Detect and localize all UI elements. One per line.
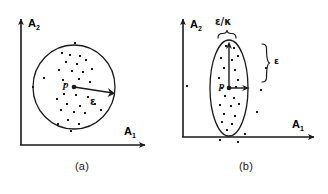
radius-line-a — [74, 87, 113, 93]
y-axis-label-b: A2 — [190, 18, 202, 32]
center-label-a: p — [63, 78, 69, 90]
x-axis-label-b: A1 — [292, 118, 304, 132]
panel-a: A2 A1 — [0, 0, 164, 194]
x-axis-label-a: A1 — [124, 125, 136, 139]
brace-minor — [218, 30, 236, 38]
figure-container: A2 A1 — [0, 0, 328, 194]
y-axis-label-a: A2 — [28, 17, 40, 31]
center-point-a — [72, 85, 77, 90]
panel-b-plot: A2 A1 — [164, 0, 328, 160]
epsilon-over-kappa-label: ε/κ — [215, 16, 231, 27]
panel-b: A2 A1 — [164, 0, 328, 194]
caption-a: (a) — [0, 160, 164, 172]
caption-b: (b) — [164, 160, 328, 172]
epsilon-label-a: ε — [90, 96, 96, 107]
center-label-b: p — [219, 79, 225, 91]
brace-major — [262, 44, 270, 82]
epsilon-label-b: ε — [274, 56, 279, 66]
center-point-b — [227, 86, 232, 91]
panel-a-plot: A2 A1 — [0, 0, 164, 160]
scatter-points-b — [186, 45, 267, 143]
